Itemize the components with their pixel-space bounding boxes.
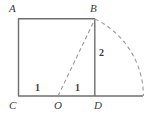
vertex-label-b: B	[90, 3, 97, 14]
measure-label-co: 1	[35, 83, 40, 93]
geometry-figure: A B C O D 1 1 2	[0, 0, 151, 116]
measure-label-od: 1	[75, 83, 80, 93]
vertex-label-d: D	[94, 100, 102, 111]
measure-label-bd: 2	[99, 48, 104, 58]
vertex-label-a: A	[9, 3, 16, 14]
vertex-label-o: O	[54, 100, 62, 111]
geometry-diagram-svg	[0, 0, 151, 116]
vertex-label-c: C	[9, 100, 16, 111]
